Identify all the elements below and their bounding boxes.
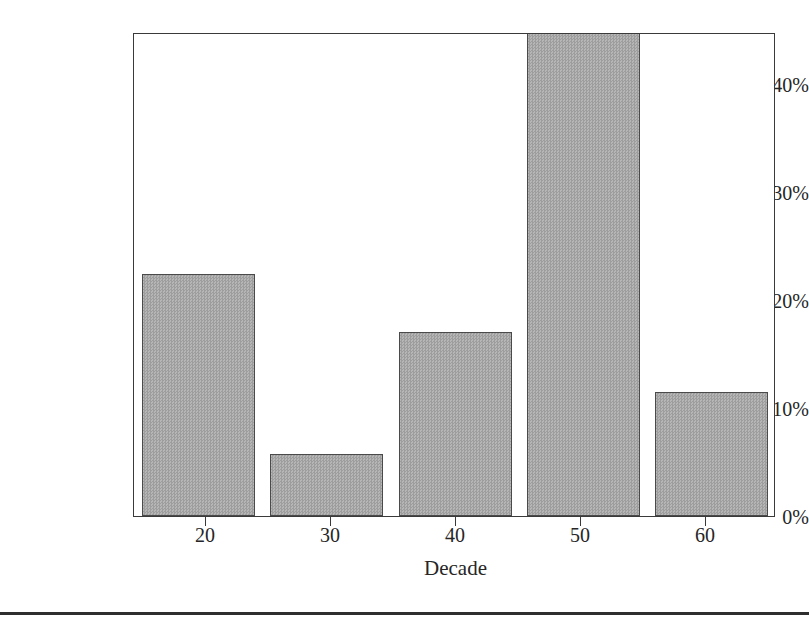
bar-chart-figure: Percent of Frequency 40% 30% 20% 10% 0% …: [0, 0, 809, 624]
x-axis-title-wrap: Decade: [0, 556, 809, 580]
x-axis-tick-label: 60: [655, 524, 755, 546]
footer-rule: [0, 612, 809, 615]
x-axis-tick-label: 50: [530, 524, 630, 546]
bar-series: [134, 34, 774, 516]
x-axis-tick-mark: [580, 517, 581, 526]
y-axis-tick-mark: [133, 86, 134, 87]
y-axis-tick-mark: [133, 194, 134, 195]
y-axis-tick-mark: [133, 410, 134, 411]
x-axis-tick-mark: [705, 517, 706, 526]
y-axis-tick-mark: [133, 302, 134, 303]
bar-decade-20[interactable]: [142, 274, 255, 516]
x-axis-tick-mark: [455, 517, 456, 526]
x-axis-tick-label: 20: [155, 524, 255, 546]
x-axis-tick-mark: [205, 517, 206, 526]
bar-decade-30[interactable]: [270, 454, 383, 516]
bar-decade-50[interactable]: [527, 33, 640, 516]
bar-decade-40[interactable]: [399, 332, 512, 516]
plot-area: [133, 33, 775, 517]
x-axis-tick-label: 40: [405, 524, 505, 546]
x-axis-tick-mark: [330, 517, 331, 526]
x-axis-title: Decade: [424, 556, 487, 580]
x-axis-tick-label: 30: [280, 524, 380, 546]
bar-decade-60[interactable]: [655, 392, 768, 516]
